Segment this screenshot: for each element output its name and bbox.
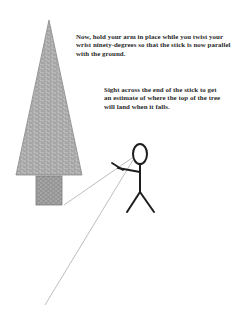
tree — [16, 20, 82, 205]
stick-figure-leg-right — [140, 192, 154, 212]
stick-figure-head — [133, 144, 147, 164]
stick-figure-leg-left — [127, 192, 140, 212]
stick-figure-stick — [112, 163, 123, 170]
tree-crown — [16, 20, 82, 175]
sight-instruction-text: Sight across the end of the stick to get… — [104, 86, 224, 111]
step-instruction-text: Now, hold your arm in place while you tw… — [76, 33, 232, 58]
tree-trunk — [36, 176, 62, 205]
stick-figure — [112, 144, 154, 212]
